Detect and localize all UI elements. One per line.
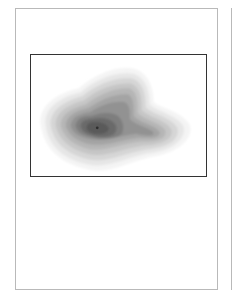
density-contour-figure	[30, 54, 207, 177]
document-page	[15, 8, 218, 290]
next-page-edge	[231, 8, 234, 290]
density-peak-marker	[96, 126, 99, 129]
contour-plot	[31, 55, 206, 176]
